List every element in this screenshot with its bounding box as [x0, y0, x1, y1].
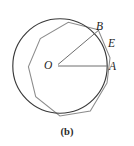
label-point-b: B	[96, 21, 103, 33]
figure-drawing	[0, 0, 134, 146]
label-point-a: A	[109, 61, 116, 73]
radius-ob	[58, 30, 100, 65]
label-center-o: O	[44, 60, 52, 72]
geometry-figure: O B E A (b)	[0, 0, 134, 146]
figure-caption: (b)	[0, 126, 134, 137]
circumscribed-polygon	[28, 22, 110, 116]
label-point-e: E	[108, 38, 115, 50]
